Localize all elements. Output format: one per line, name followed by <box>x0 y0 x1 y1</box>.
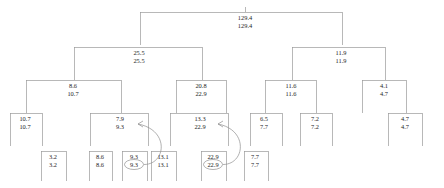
arrow-229 <box>218 124 240 165</box>
arrow-93 <box>138 124 161 165</box>
circled-value-marker <box>204 160 223 170</box>
circled-value-marker <box>125 160 144 170</box>
tree-diagram-canvas <box>0 0 444 188</box>
